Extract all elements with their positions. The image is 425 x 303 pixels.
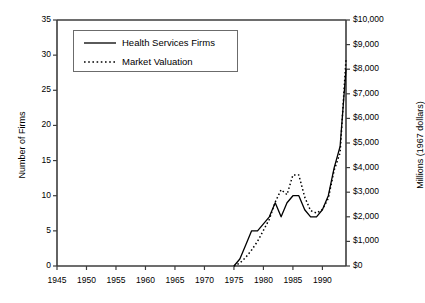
y-tick-label-left: 10 — [11, 190, 51, 200]
chart-series — [234, 59, 346, 266]
y-tick-label-right: $2,000 — [353, 211, 407, 221]
series-line-market-valuation — [234, 59, 346, 266]
chart-legend: Health Services Firms Market Valuation — [73, 30, 238, 72]
y-axis-right-title: Millions (1967 dollars) — [415, 65, 425, 225]
y-tick-label-left: 25 — [11, 84, 51, 94]
legend-label-market-valuation: Market Valuation — [122, 56, 193, 67]
legend-solid-line-icon — [83, 38, 117, 48]
y-tick-label-left: 5 — [11, 225, 51, 235]
legend-item-health-services-firms: Health Services Firms — [74, 33, 237, 52]
y-tick-label-right: $0 — [353, 260, 407, 270]
y-tick-label-right: $9,000 — [353, 39, 407, 49]
y-tick-label-right: $5,000 — [353, 137, 407, 147]
y-tick-label-right: $3,000 — [353, 186, 407, 196]
y-tick-label-left: 15 — [11, 155, 51, 165]
y-tick-label-right: $8,000 — [353, 63, 407, 73]
y-tick-label-right: $7,000 — [353, 88, 407, 98]
legend-label-health-services-firms: Health Services Firms — [122, 37, 215, 48]
y-tick-label-left: 30 — [11, 49, 51, 59]
y-axis-left-title: Number of Firms — [17, 85, 27, 205]
series-line-health-services-firms — [234, 69, 346, 266]
y-tick-label-right: $10,000 — [353, 14, 407, 24]
y-tick-label-right: $6,000 — [353, 112, 407, 122]
y-tick-label-right: $4,000 — [353, 162, 407, 172]
y-tick-label-left: 0 — [11, 260, 51, 270]
y-tick-label-left: 20 — [11, 119, 51, 129]
x-tick-label: 1990 — [305, 275, 339, 285]
legend-item-market-valuation: Market Valuation — [74, 52, 237, 71]
y-tick-label-left: 35 — [11, 14, 51, 24]
legend-dotted-line-icon — [83, 57, 117, 67]
y-tick-label-right: $1,000 — [353, 235, 407, 245]
